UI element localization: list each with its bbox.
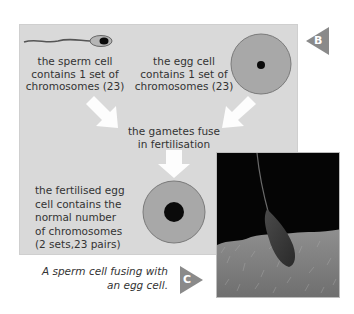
fertilised-label-line: (2 sets,23 pairs) (35, 238, 145, 252)
sperm-label-line: contains 1 set of (20, 68, 130, 81)
sperm-cell-icon (24, 36, 112, 47)
egg-cell-label: the egg cell contains 1 set of chromosom… (128, 55, 240, 93)
fertilised-label-line: normal number (35, 211, 145, 225)
photo-caption: A sperm cell fusing with an egg cell. (42, 265, 168, 292)
badge-c-label: C (183, 273, 191, 286)
caption-line: A sperm cell fusing with (42, 265, 168, 279)
fertilised-egg-icon (143, 181, 205, 243)
egg-label-line: chromosomes (23) (128, 80, 240, 93)
fusion-label-line: in fertilisation (114, 138, 234, 151)
sperm-cell-label: the sperm cell contains 1 set of chromos… (20, 55, 130, 93)
egg-label-line: contains 1 set of (128, 68, 240, 81)
fertilised-label-line: of chromosomes (35, 225, 145, 239)
arrow-down-right-icon (86, 96, 118, 128)
sperm-egg-micrograph (216, 152, 340, 298)
micrograph-image (217, 153, 340, 298)
egg-label-line: the egg cell (128, 55, 240, 68)
fertilised-egg-label: the fertilised egg cell contains the nor… (35, 184, 145, 252)
arrow-down-icon (158, 150, 190, 178)
arrow-down-left-icon (222, 96, 256, 128)
fusion-label: the gametes fuse in fertilisation (114, 125, 234, 150)
fusion-label-line: the gametes fuse (114, 125, 234, 138)
egg-cell-icon (231, 34, 291, 94)
sperm-label-line: the sperm cell (20, 55, 130, 68)
fertilised-label-line: cell contains the (35, 198, 145, 212)
fertilised-label-line: the fertilised egg (35, 184, 145, 198)
caption-line: an egg cell. (42, 279, 168, 293)
sperm-label-line: chromosomes (23) (20, 80, 130, 93)
badge-b-label: B (314, 34, 322, 47)
